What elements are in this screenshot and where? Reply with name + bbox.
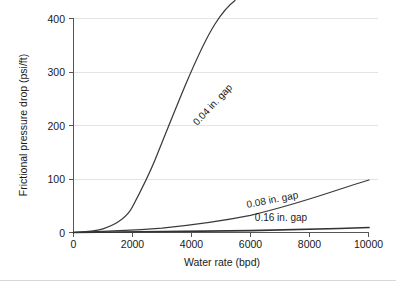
- y-tick-label-200: 200: [47, 120, 65, 132]
- y-tick-label-400: 400: [47, 13, 65, 25]
- series-labels: 0.04 in. gap 0.08 in. gap 0.16 in. gap: [191, 81, 308, 223]
- series-label-008-in-gap: 0.08 in. gap: [246, 189, 300, 210]
- y-tick-label-100: 100: [47, 173, 65, 185]
- frictional-pressure-drop-chart: 400 300 200 100 0 0 2000 4000 6000 8000 …: [0, 0, 396, 286]
- x-tick-label-6000: 6000: [239, 238, 263, 250]
- chart-figure: 400 300 200 100 0 0 2000 4000 6000 8000 …: [0, 0, 396, 286]
- x-tick-labels: 0 2000 4000 6000 8000 10000: [71, 238, 384, 250]
- gridlines: [73, 19, 378, 180]
- y-tick-label-300: 300: [47, 66, 65, 78]
- x-tick-label-2000: 2000: [121, 238, 145, 250]
- y-tick-marks: [69, 19, 73, 233]
- series-label-016-in-gap: 0.16 in. gap: [255, 212, 308, 223]
- x-tick-label-4000: 4000: [180, 238, 204, 250]
- curve-004-in-gap: [74, 1, 236, 233]
- curve-008-in-gap: [74, 180, 370, 232]
- data-curves: [74, 1, 370, 233]
- x-tick-label-8000: 8000: [298, 238, 322, 250]
- x-axis-title: Water rate (bpd): [184, 256, 260, 268]
- y-axis-title: Frictional pressure drop (psi/ft): [17, 54, 29, 196]
- series-label-004-in-gap: 0.04 in. gap: [191, 81, 235, 127]
- y-tick-labels: 400 300 200 100 0: [47, 13, 65, 239]
- y-tick-label-0: 0: [59, 227, 65, 239]
- x-tick-label-0: 0: [71, 238, 77, 250]
- x-tick-marks: [74, 233, 369, 237]
- x-tick-label-10000: 10000: [354, 238, 383, 250]
- curve-016-in-gap: [74, 228, 370, 233]
